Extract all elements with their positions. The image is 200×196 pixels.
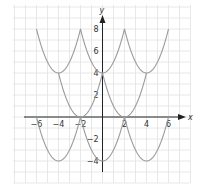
y-axis-arrow-icon bbox=[100, 15, 106, 23]
y-tick-labels: 8 6 4 2 −2 −4 bbox=[87, 25, 99, 166]
y-axis-label: y bbox=[99, 6, 105, 15]
y-tick-label: 8 bbox=[93, 25, 98, 34]
graph: x y −6 −4 −2 2 4 6 8 6 4 2 −2 −4 bbox=[0, 0, 200, 196]
x-axis-arrow-icon bbox=[178, 114, 186, 120]
x-tick-label: −2 bbox=[75, 120, 87, 129]
x-axis-label: x bbox=[187, 113, 193, 122]
x-tick-label: −6 bbox=[31, 120, 43, 129]
y-tick-label: 6 bbox=[93, 47, 98, 56]
grid-lines bbox=[13, 5, 191, 183]
x-tick-label: −4 bbox=[53, 120, 65, 129]
x-tick-label: 4 bbox=[144, 120, 149, 129]
